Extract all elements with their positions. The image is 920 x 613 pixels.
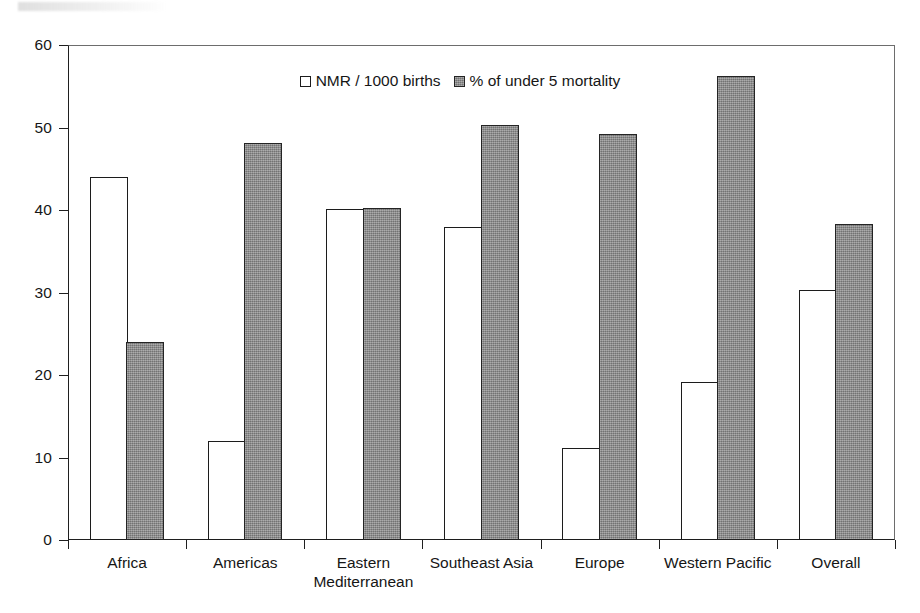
bar: [363, 208, 401, 540]
x-axis-label: Europe: [541, 553, 659, 591]
y-axis-tick-mark: [59, 210, 68, 211]
bar: [562, 448, 600, 540]
x-axis-tick-mark: [659, 540, 660, 549]
x-axis: AfricaAmericasEasternMediterraneanSouthe…: [68, 540, 895, 613]
y-axis-tick-label: 10: [35, 448, 52, 468]
x-axis-label-line: Southeast Asia: [423, 553, 539, 572]
bar: [799, 290, 837, 540]
y-axis-tick-label: 40: [35, 200, 52, 220]
x-axis-label-line: Eastern: [305, 553, 421, 572]
x-axis-label: Southeast Asia: [422, 553, 540, 591]
x-axis-tick: [186, 540, 304, 550]
y-axis-tick-mark: [59, 45, 68, 46]
x-axis-tick: [422, 540, 540, 550]
x-axis-tick-mark: [68, 540, 69, 549]
x-axis-labels: AfricaAmericasEasternMediterraneanSouthe…: [68, 553, 895, 591]
bar: [681, 382, 719, 540]
x-axis-tick-mark: [186, 540, 187, 549]
bar-group: [541, 45, 659, 540]
y-axis-tick-mark: [59, 375, 68, 376]
x-axis-label-line: Europe: [542, 553, 658, 572]
bar-group: [68, 45, 186, 540]
bar-group: [186, 45, 304, 540]
x-axis-label: Africa: [68, 553, 186, 591]
x-axis-tick: [777, 540, 895, 550]
y-axis-tick-mark: [59, 128, 68, 129]
x-axis-label-line: Mediterranean: [305, 572, 421, 591]
x-axis-label: Overall: [777, 553, 895, 591]
y-axis-tick-label: 0: [43, 530, 52, 550]
y-axis-tick-mark: [59, 540, 68, 541]
x-axis-label-line: Western Pacific: [660, 553, 776, 572]
bar: [481, 125, 519, 540]
x-axis-tick-mark: [895, 540, 896, 549]
x-axis-label: Western Pacific: [659, 553, 777, 591]
y-axis-tick-mark: [59, 293, 68, 294]
bar: [835, 224, 873, 540]
x-axis-label-line: Americas: [187, 553, 303, 572]
bar: [244, 143, 282, 540]
x-axis-tick: [541, 540, 659, 550]
bar-group: [422, 45, 540, 540]
x-axis-label: EasternMediterranean: [304, 553, 422, 591]
bar-group: [304, 45, 422, 540]
y-axis: 0102030405060: [0, 45, 68, 540]
x-axis-tick-mark: [304, 540, 305, 549]
x-axis-tick: [304, 540, 422, 550]
bar-group: [777, 45, 895, 540]
x-axis-label-line: Overall: [778, 553, 894, 572]
x-axis-ticks: [68, 540, 895, 550]
x-axis-tick: [68, 540, 186, 550]
x-axis-tick-mark: [422, 540, 423, 549]
bar-group: [659, 45, 777, 540]
bars-layer: [68, 45, 895, 540]
x-axis-tick-mark: [541, 540, 542, 549]
x-axis-label: Americas: [186, 553, 304, 591]
x-axis-tick: [659, 540, 777, 550]
bar: [126, 342, 164, 540]
y-axis-tick-label: 60: [35, 35, 52, 55]
y-axis-tick-label: 20: [35, 365, 52, 385]
bar: [599, 134, 637, 540]
y-axis-tick-label: 30: [35, 283, 52, 303]
y-axis-tick-label: 50: [35, 118, 52, 138]
y-axis-tick-mark: [59, 458, 68, 459]
bar: [444, 227, 482, 541]
x-axis-label-line: Africa: [69, 553, 185, 572]
bar: [208, 441, 246, 540]
bar: [717, 76, 755, 540]
bar: [326, 209, 364, 540]
x-axis-tick-mark: [777, 540, 778, 549]
bar: [90, 177, 128, 540]
grouped-bar-chart: 0102030405060 NMR / 1000 births% of unde…: [0, 0, 920, 613]
